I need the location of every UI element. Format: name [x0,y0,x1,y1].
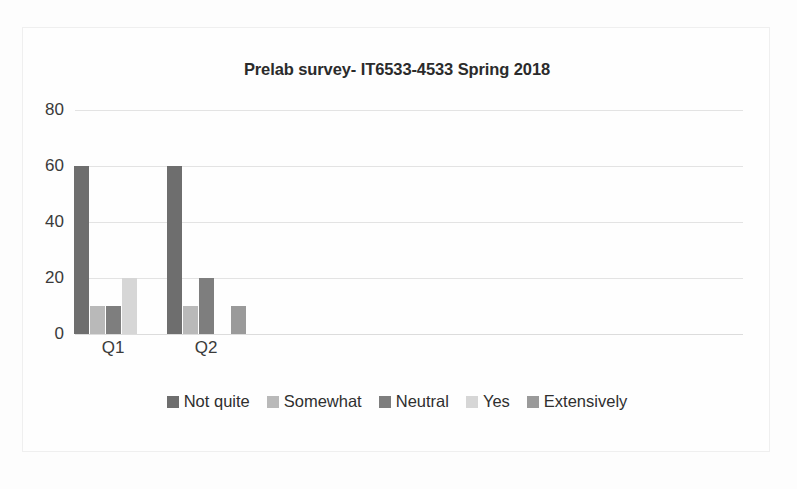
legend-swatch-icon [379,396,391,408]
legend-swatch-icon [167,396,179,408]
legend-item[interactable]: Not quite [167,392,250,411]
bar [167,166,182,334]
bar-group [74,110,153,334]
y-tick-label: 60 [45,156,64,176]
legend-swatch-icon [466,396,478,408]
legend-item[interactable]: Yes [466,392,510,411]
chart-legend: Not quiteSomewhatNeutralYesExtensively [23,392,771,411]
bar [183,306,198,334]
bar [199,278,214,334]
bar [122,278,137,334]
bar [106,306,121,334]
chart-frame: Prelab survey- IT6533-4533 Spring 2018 0… [22,27,770,452]
y-tick-label: 80 [45,100,64,120]
y-tick-label: 40 [45,212,64,232]
legend-item[interactable]: Somewhat [267,392,362,411]
bar-group [167,110,246,334]
legend-item[interactable]: Neutral [379,392,449,411]
legend-label: Not quite [184,392,250,411]
bar [231,306,246,334]
legend-item[interactable]: Extensively [527,392,627,411]
y-tick-label: 20 [45,268,64,288]
chart-title: Prelab survey- IT6533-4533 Spring 2018 [23,60,771,79]
scanned-page: Prelab survey- IT6533-4533 Spring 2018 0… [0,0,797,489]
legend-label: Extensively [544,392,627,411]
legend-label: Neutral [396,392,449,411]
y-tick-label: 0 [55,324,64,344]
bar [90,306,105,334]
legend-label: Yes [483,392,510,411]
bar [74,166,89,334]
x-tick-label: Q1 [102,338,125,358]
x-tick-label: Q2 [195,338,218,358]
plot-area: 020406080 [75,110,743,334]
legend-label: Somewhat [284,392,362,411]
legend-swatch-icon [527,396,539,408]
gridline [75,334,743,335]
x-axis: Q1Q2 [75,338,743,368]
legend-swatch-icon [267,396,279,408]
